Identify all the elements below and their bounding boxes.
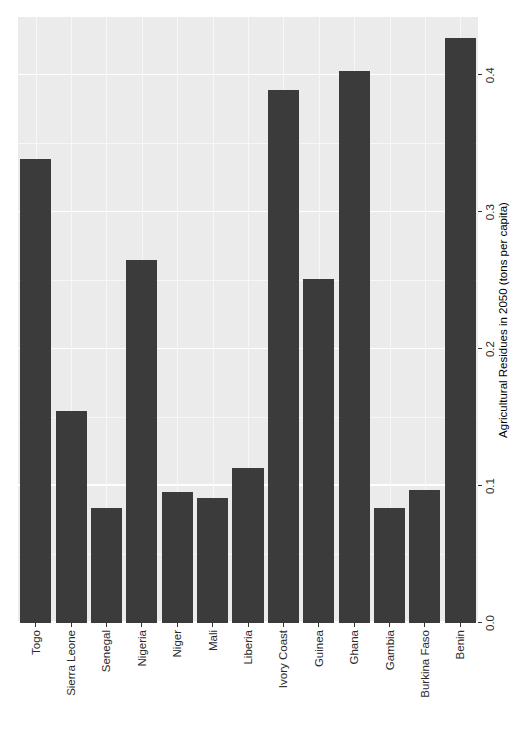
category-label-mali: Mali <box>207 630 219 651</box>
bar-ivory-coast[interactable] <box>268 90 299 623</box>
bar-niger[interactable] <box>162 492 193 623</box>
category-label-burkina-faso: Burkina Faso <box>419 630 431 698</box>
category-tick-mark <box>460 623 461 627</box>
bar-chart-figure: 0.00.10.20.30.4 Agricultural Residues in… <box>0 0 516 743</box>
category-tick-mark <box>106 623 107 627</box>
category-tick-mark <box>71 623 72 627</box>
category-label-niger: Niger <box>171 630 183 657</box>
category-tick-mark <box>318 623 319 627</box>
bar-guinea[interactable] <box>303 279 334 623</box>
category-label-gambia: Gambia <box>384 630 396 670</box>
value-tick-label: 0.3 <box>484 204 496 220</box>
category-label-nigeria: Nigeria <box>136 630 148 666</box>
category-axis: TogoSierra LeoneSenegalNigeriaNigerMaliL… <box>18 623 478 743</box>
bar-ghana[interactable] <box>339 71 370 623</box>
bar-benin[interactable] <box>445 38 476 623</box>
category-label-liberia: Liberia <box>242 630 254 665</box>
figure-rotator: 0.00.10.20.30.4 Agricultural Residues in… <box>0 0 516 743</box>
bar-nigeria[interactable] <box>126 260 157 623</box>
bar-gambia[interactable] <box>374 508 405 623</box>
bar-burkina-faso[interactable] <box>409 490 440 623</box>
value-tick-mark <box>478 74 482 75</box>
value-tick-mark <box>478 211 482 212</box>
category-label-togo: Togo <box>30 630 42 655</box>
plot-panel <box>18 17 478 623</box>
bar-mali[interactable] <box>197 498 228 623</box>
category-label-ivory-coast: Ivory Coast <box>277 630 289 688</box>
value-tick-mark <box>478 622 482 623</box>
category-label-sierra-leone: Sierra Leone <box>65 630 77 696</box>
category-tick-mark <box>35 623 36 627</box>
category-label-guinea: Guinea <box>313 630 325 667</box>
category-label-ghana: Ghana <box>348 630 360 665</box>
bar-senegal[interactable] <box>91 508 122 623</box>
category-label-benin: Benin <box>454 630 466 659</box>
category-tick-mark <box>354 623 355 627</box>
value-tick-mark <box>478 348 482 349</box>
value-tick-label: 0.4 <box>484 67 496 83</box>
category-tick-mark <box>424 623 425 627</box>
category-tick-mark <box>141 623 142 627</box>
value-axis-title: Agricultural Residues in 2050 (tons per … <box>497 17 509 623</box>
value-tick-label: 0.2 <box>484 341 496 357</box>
category-tick-mark <box>389 623 390 627</box>
bar-sierra-leone[interactable] <box>56 411 87 623</box>
value-tick-label: 0.1 <box>484 478 496 494</box>
value-tick-mark <box>478 485 482 486</box>
value-tick-label: 0.0 <box>484 615 496 631</box>
category-tick-mark <box>212 623 213 627</box>
category-label-senegal: Senegal <box>100 630 112 672</box>
bar-togo[interactable] <box>20 159 51 623</box>
bar-liberia[interactable] <box>232 468 263 623</box>
category-tick-mark <box>177 623 178 627</box>
category-tick-mark <box>283 623 284 627</box>
category-tick-mark <box>248 623 249 627</box>
